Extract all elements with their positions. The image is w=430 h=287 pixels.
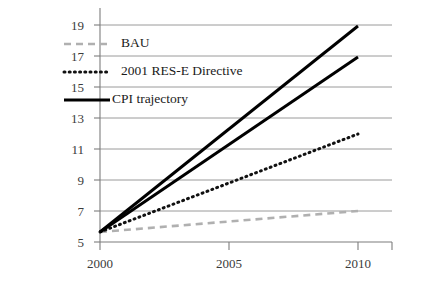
x-tickmarks-group <box>100 242 358 250</box>
y-tick-label-15: 15 <box>71 80 84 95</box>
y-tick-label-5: 5 <box>78 235 85 250</box>
series-line-cpi-trajectory-upper <box>100 26 358 232</box>
chart-canvas: 19 17 15 13 11 9 7 5 2000 2005 2010 <box>0 0 430 287</box>
x-tick-label-2010: 2010 <box>345 256 371 271</box>
legend-item-res-e-directive[interactable]: 2001 RES-E Directive <box>64 63 242 78</box>
y-tick-label-13: 13 <box>71 111 84 126</box>
y-tick-label-17: 17 <box>71 49 85 64</box>
x-tick-label-2005: 2005 <box>216 256 242 271</box>
legend-label-bau: BAU <box>121 35 150 50</box>
x-tick-labels-group: 2000 2005 2010 <box>87 256 371 271</box>
x-tick-label-2000: 2000 <box>87 256 113 271</box>
chart-legend: BAU 2001 RES-E Directive CPI trajectory <box>64 35 242 106</box>
gridlines-group <box>100 25 392 211</box>
legend-label-res-e-directive: 2001 RES-E Directive <box>121 63 242 78</box>
y-tick-label-19: 19 <box>71 18 84 33</box>
renewable-energy-trajectory-chart: 19 17 15 13 11 9 7 5 2000 2005 2010 <box>0 0 430 287</box>
y-tick-labels-group: 19 17 15 13 11 9 7 5 <box>71 18 85 250</box>
data-series-group <box>100 26 358 232</box>
series-line-cpi-trajectory-lower <box>100 57 358 232</box>
y-tickmarks-group <box>94 25 100 242</box>
y-tick-label-7: 7 <box>78 204 85 219</box>
legend-item-bau[interactable]: BAU <box>64 35 150 50</box>
legend-label-cpi-trajectory: CPI trajectory <box>112 91 188 106</box>
series-line-bau <box>100 211 358 232</box>
y-tick-label-9: 9 <box>78 173 85 188</box>
y-tick-label-11: 11 <box>71 142 84 157</box>
